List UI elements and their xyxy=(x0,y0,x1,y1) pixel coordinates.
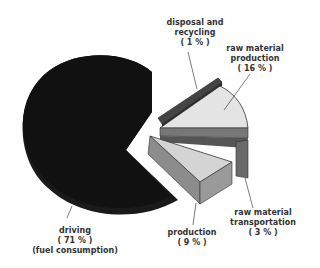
slice-raw-material-transportation xyxy=(236,140,248,178)
slice-driving xyxy=(23,55,178,214)
label-production: production ( 9 % ) xyxy=(162,228,222,248)
label-disposal-recycling: disposal and recycling ( 1 % ) xyxy=(164,18,226,48)
label-raw-material-transportation: raw material transportation ( 3 % ) xyxy=(228,208,298,238)
label-driving: driving ( 71 % ) (fuel consumption) xyxy=(30,226,120,256)
label-raw-material-production: raw material production ( 16 % ) xyxy=(224,44,286,74)
